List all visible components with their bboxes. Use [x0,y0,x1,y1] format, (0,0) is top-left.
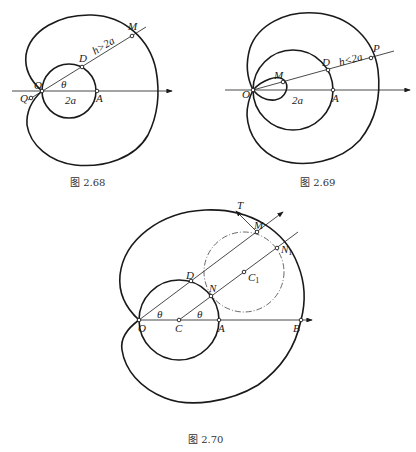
point-Q [29,96,33,100]
label-N: N [208,282,217,294]
conchoid-curve [26,15,158,166]
label-M: M [127,20,138,32]
label-A: A [95,92,103,104]
label-D: D [185,269,194,281]
cardioid-curve [120,210,304,403]
label-h: h<2a [337,50,364,68]
point-D [80,65,84,69]
label-A: A [217,322,225,334]
label-M: M [253,219,264,231]
label-theta-1: θ [157,308,163,320]
label-2a: 2a [292,94,304,106]
label-D: D [321,56,330,68]
label-A: A [331,92,339,104]
label-B: B [293,322,300,334]
caption: 图 2.69 [300,177,335,188]
point-N [209,294,213,298]
figure-2-68: M D O Q A θ 2a h>2a 图 2.68 [12,15,172,188]
point-N1 [275,246,279,250]
caption: 图 2.68 [70,177,105,188]
label-C1: C1 [248,271,259,285]
label-theta-2: θ [197,308,203,320]
figure-2-69: M D O P A 2a h<2a 图 2.69 [225,13,410,188]
point-C1 [242,270,246,274]
label-2a: 2a [65,94,77,106]
point-D [326,68,330,72]
caption: 图 2.70 [188,434,223,445]
label-T: T [237,199,244,211]
point-P [369,56,373,60]
limacon-curve [247,13,379,164]
label-theta: θ [61,78,67,90]
label-O: O [138,322,146,334]
label-Q: Q [20,92,28,104]
point-M [130,34,134,38]
label-N1: N1 [280,243,292,257]
label-D: D [78,52,87,64]
point-O [251,88,255,92]
label-M: M [273,69,284,81]
figure-2-70: T M N1 D N C1 O C A B θ θ 图 2.70 [120,199,312,445]
label-O: O [34,79,42,91]
diagram-canvas: M D O Q A θ 2a h>2a 图 2.68 M D O P A 2a … [0,0,416,452]
label-P: P [372,42,380,54]
label-O: O [242,88,250,100]
point-B [299,318,303,322]
label-C: C [175,322,183,334]
ray-line [28,27,146,100]
